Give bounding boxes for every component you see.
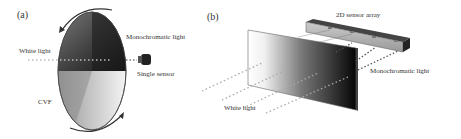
monochromatic-light-label-b: Monochromatic light — [370, 67, 429, 75]
linear-variable-filter — [248, 30, 358, 111]
panel-b-label: (b) — [207, 11, 219, 22]
white-light-label-b: White light — [224, 104, 256, 112]
cvf-label: CVF — [38, 98, 52, 106]
white-light-label-a: White light — [19, 47, 51, 55]
cvf-disc — [58, 12, 126, 130]
single-sensor-icon — [138, 54, 151, 65]
monochromatic-light-label-a: Monochromatic light — [126, 33, 185, 41]
single-sensor-label: Single sensor — [137, 70, 175, 78]
sensor-array-label: 2D sensor array — [336, 11, 380, 19]
panel-a-label: (a) — [17, 9, 28, 20]
